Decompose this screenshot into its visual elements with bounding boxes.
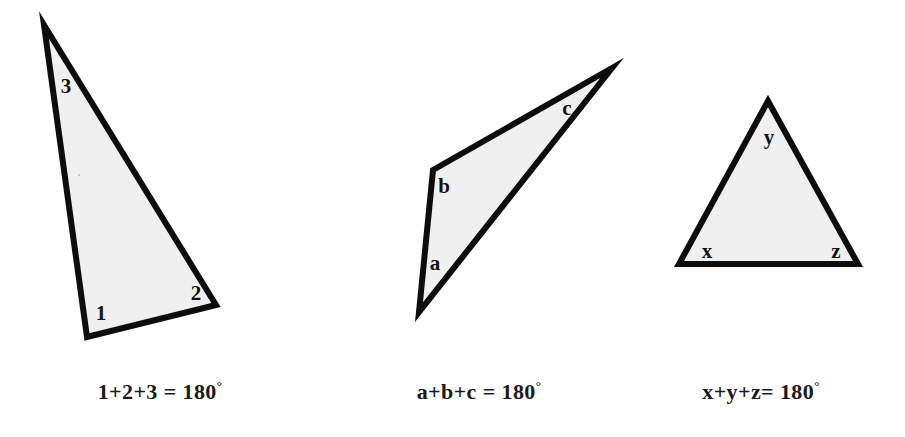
angle-label-2: 2	[191, 283, 202, 304]
caption-2-equation: a+b+c = 180	[417, 379, 536, 404]
caption-1-equation: 1+2+3 = 180	[98, 379, 217, 404]
angle-label-y: y	[764, 127, 775, 148]
triangle-diagram-canvas	[0, 0, 905, 437]
degree-symbol-icon: °	[536, 378, 542, 393]
caption-3-equation: x+y+z= 180	[702, 379, 814, 404]
caption-triangle-2: a+b+c = 180°	[417, 379, 542, 402]
caption-triangle-3: x+y+z= 180°	[702, 379, 819, 402]
angle-label-z: z	[831, 241, 840, 262]
degree-symbol-icon: °	[814, 378, 820, 393]
angle-label-1: 1	[96, 303, 107, 324]
degree-symbol-icon: °	[217, 378, 223, 393]
angle-label-x: x	[702, 241, 713, 262]
figure-root: 3 1 2 b a c y x z 1+2+3 = 180° a+b+c = 1…	[0, 0, 905, 437]
caption-triangle-1: 1+2+3 = 180°	[98, 379, 223, 402]
scan-speck-artifact	[78, 174, 80, 176]
angle-label-a: a	[430, 253, 441, 274]
angle-label-b: b	[438, 176, 450, 197]
angle-label-c: c	[562, 98, 571, 119]
angle-label-3: 3	[61, 76, 72, 97]
